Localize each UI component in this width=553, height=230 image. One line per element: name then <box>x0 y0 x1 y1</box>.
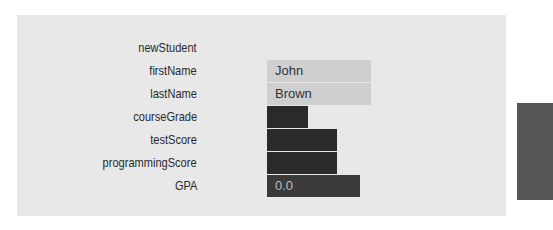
side-edge-block <box>517 103 553 200</box>
field-label-firstName: firstName <box>150 63 197 78</box>
field-label-lastName: lastName <box>150 86 197 101</box>
field-label-testScore: testScore <box>150 132 197 147</box>
field-value-testScore <box>267 129 337 151</box>
field-value-lastName: Brown <box>267 83 371 105</box>
object-diagram-panel: newStudent firstNameJohnlastNameBrowncou… <box>17 15 506 216</box>
field-label-programmingScore: programmingScore <box>103 155 197 170</box>
field-label-courseGrade: courseGrade <box>133 109 197 124</box>
field-value-courseGrade <box>267 106 308 128</box>
field-value-firstName: John <box>267 60 371 82</box>
object-name: newStudent <box>139 40 197 55</box>
field-value-GPA: 0.0 <box>267 175 360 197</box>
field-label-GPA: GPA <box>174 178 197 193</box>
field-value-programmingScore <box>267 152 337 174</box>
